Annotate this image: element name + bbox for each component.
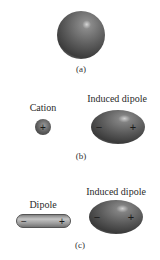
caption-c: (c) — [65, 240, 95, 251]
induced-dipole-b-minus-icon: − — [96, 121, 102, 133]
panel-a — [57, 11, 105, 59]
dipole-plus-icon: + — [59, 216, 65, 227]
dipole-minus-icon: − — [21, 216, 27, 227]
induced-dipole-b-plus-icon: + — [130, 121, 136, 133]
induced-dipole-label-b: Induced dipole — [84, 93, 150, 105]
cation-label: Cation — [23, 102, 63, 114]
induced-dipole-c-minus-icon: − — [94, 211, 100, 223]
caption-a: (a) — [66, 64, 96, 75]
polarization-diagram: + − + − + − + — [0, 0, 160, 260]
induced-dipole-label-c: Induced dipole — [83, 186, 149, 198]
induced-dipole-c-plus-icon: + — [128, 211, 134, 223]
caption-b: (b) — [66, 151, 96, 162]
panel-b: + − + — [35, 110, 145, 144]
cation-charge-plus-icon: + — [40, 122, 46, 133]
dipole-label: Dipole — [23, 199, 63, 211]
neutral-atom-sphere — [57, 11, 105, 59]
